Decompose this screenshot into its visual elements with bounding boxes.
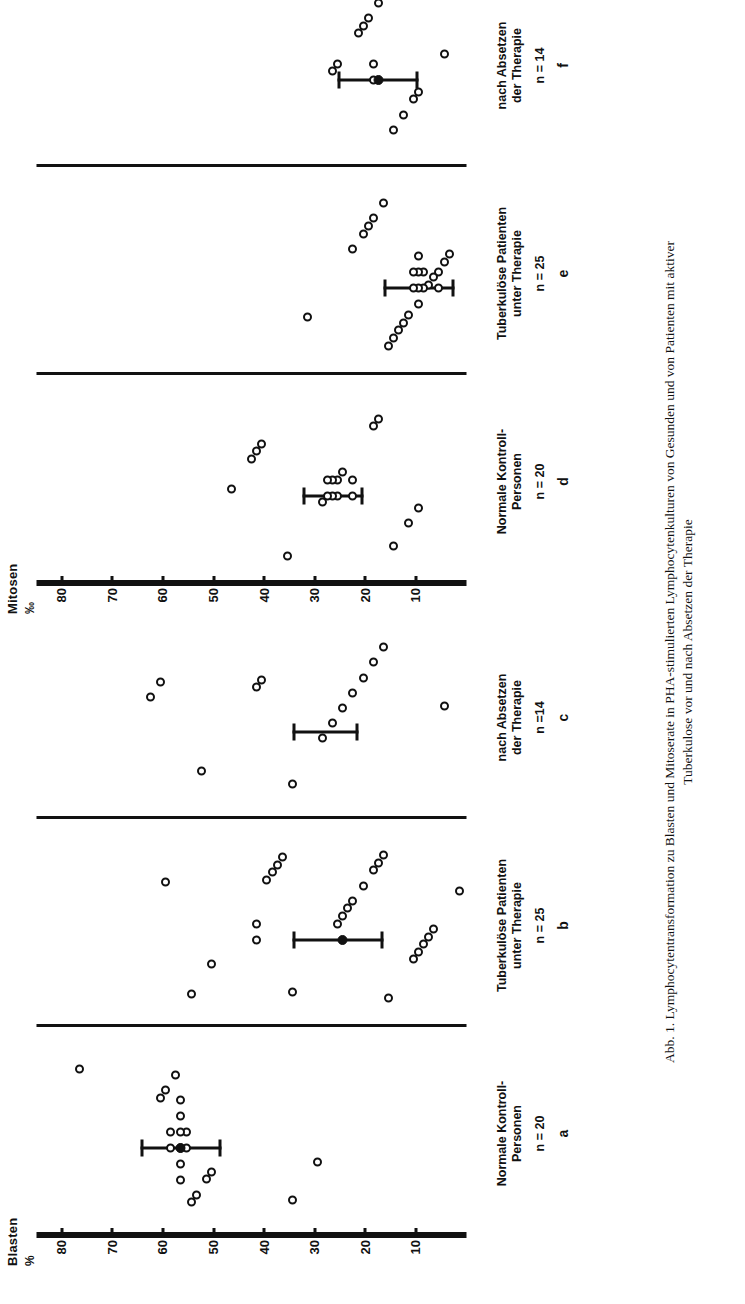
- data-point: [282, 551, 291, 560]
- panel-title-b: Tuberkulöse Patienten unter Therapie: [494, 827, 524, 1024]
- data-point: [434, 284, 443, 293]
- axis-tick-label-blasten-60: 60: [155, 1240, 170, 1264]
- data-point: [368, 60, 377, 69]
- axis-title-mitosen: Mitosen: [4, 563, 19, 614]
- panel-n-b: n = 25: [532, 827, 546, 1024]
- data-point: [166, 1144, 175, 1153]
- data-point: [328, 719, 337, 728]
- mean-marker-b: [337, 935, 347, 945]
- error-cap-d-lower: [360, 488, 363, 505]
- plot-area-f: [36, 0, 466, 164]
- panel-e: Tuberkulöse Patienten unter Therapien = …: [36, 175, 466, 375]
- panel-letter-d: d: [554, 383, 570, 580]
- data-point: [348, 244, 357, 253]
- panel-n-c: n =14: [532, 619, 546, 816]
- axis-tick-label-mitosen-80: 80: [53, 588, 68, 612]
- axis-tick-label-blasten-70: 70: [104, 1240, 119, 1264]
- data-point: [414, 503, 423, 512]
- mean-marker-f: [373, 75, 383, 85]
- data-point: [373, 0, 382, 7]
- axis-tick-label-mitosen-30: 30: [306, 588, 321, 612]
- plot-area-e: [36, 175, 466, 372]
- data-point: [439, 701, 448, 710]
- value-axis-mitosen: [36, 583, 466, 586]
- data-point: [323, 476, 332, 485]
- data-point: [383, 993, 392, 1002]
- error-cap-b-lower: [380, 932, 383, 949]
- panel-title-e: Tuberkulöse Patienten unter Therapie: [494, 175, 524, 372]
- panel-letter-f: f: [554, 0, 570, 164]
- data-point: [252, 920, 261, 929]
- panel-title-c: nach Absetzen der Therapie: [494, 619, 524, 816]
- error-cap-b-upper: [292, 932, 295, 949]
- figure-caption-line2: Tuberkulose vor und nach Absetzen der Th…: [678, 0, 696, 1304]
- panel-b: Tuberkulöse Patienten unter Therapien = …: [36, 827, 466, 1027]
- data-point: [176, 1176, 185, 1185]
- panel-title-d: Normale Kontroll- Personen: [494, 383, 524, 580]
- axis-tick-label-blasten-20: 20: [357, 1240, 372, 1264]
- axis-tick-label-mitosen-20: 20: [357, 588, 372, 612]
- panel-c: nach Absetzen der Therapien =14c: [36, 619, 466, 819]
- data-point: [368, 658, 377, 667]
- panel-letter-b: b: [554, 827, 570, 1024]
- value-axis-blasten: [36, 1235, 466, 1238]
- data-point: [186, 1198, 195, 1207]
- data-point: [358, 229, 367, 238]
- data-point: [146, 692, 155, 701]
- error-cap-e-lower: [451, 280, 454, 297]
- error-cap-d-upper: [302, 488, 305, 505]
- data-point: [378, 643, 387, 652]
- error-cap-c-upper: [292, 724, 295, 741]
- data-point: [388, 541, 397, 550]
- data-point: [368, 422, 377, 431]
- data-point: [399, 110, 408, 119]
- data-point: [166, 1128, 175, 1137]
- data-point: [409, 95, 418, 104]
- axis-tick-label-blasten-40: 40: [256, 1240, 271, 1264]
- axis-tick-label-mitosen-70: 70: [104, 588, 119, 612]
- panel-n-a: n = 20: [532, 1035, 546, 1232]
- panel-n-f: n = 14: [532, 0, 546, 164]
- figure-canvas: Blasten % 8070605040302010 Normale Kontr…: [0, 0, 745, 1304]
- error-cap-f-upper: [337, 72, 340, 89]
- plot-area-b: [36, 827, 466, 1024]
- axis-unit-blasten: %: [22, 1255, 36, 1266]
- figure-caption-line1: Abb. 1. Lymphocytentransformation zu Bla…: [661, 241, 676, 1063]
- data-point: [262, 876, 271, 885]
- axis-tick-label-blasten-80: 80: [53, 1240, 68, 1264]
- data-point: [353, 29, 362, 38]
- plot-area-c: [36, 619, 466, 816]
- data-point: [302, 313, 311, 322]
- data-point: [378, 199, 387, 208]
- data-point: [409, 284, 418, 293]
- data-point: [318, 498, 327, 507]
- panel-letter-e: e: [554, 175, 570, 372]
- data-point: [404, 519, 413, 528]
- data-point: [313, 1157, 322, 1166]
- data-point: [287, 1196, 296, 1205]
- data-point: [348, 688, 357, 697]
- data-point: [358, 673, 367, 682]
- data-point: [383, 341, 392, 350]
- data-point: [176, 1160, 185, 1169]
- error-cap-a-upper: [140, 1140, 143, 1157]
- data-point: [409, 268, 418, 277]
- error-bar-c: [292, 731, 358, 734]
- data-point: [201, 1175, 210, 1184]
- data-point: [206, 959, 215, 968]
- data-point: [328, 67, 337, 76]
- axis-tick-label-mitosen-60: 60: [155, 588, 170, 612]
- data-point: [196, 766, 205, 775]
- axis-tick-label-blasten-10: 10: [408, 1240, 423, 1264]
- data-point: [247, 454, 256, 463]
- data-point: [348, 476, 357, 485]
- data-point: [156, 677, 165, 686]
- data-point: [414, 252, 423, 261]
- panel-f: nach Absetzen der Therapien = 14f: [36, 0, 466, 167]
- error-cap-a-lower: [218, 1140, 221, 1157]
- data-point: [176, 1112, 185, 1121]
- axis-tick-label-mitosen-10: 10: [408, 588, 423, 612]
- axis-tick-label-mitosen-50: 50: [205, 588, 220, 612]
- data-point: [161, 878, 170, 887]
- data-point: [171, 1070, 180, 1079]
